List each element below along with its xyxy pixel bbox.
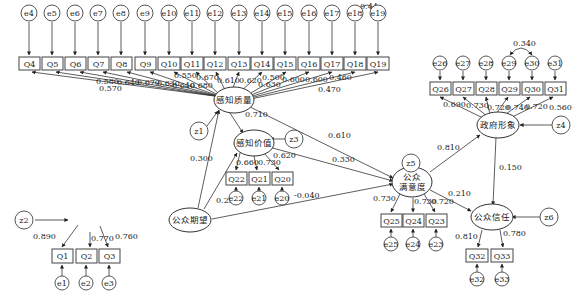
svg-text:0.730: 0.730 <box>466 101 489 110</box>
ps-items: 0.730 0.730 0.720 Q25 Q24 Q23 e25 e24 e2… <box>373 194 454 251</box>
svg-text:0.760: 0.760 <box>115 232 138 241</box>
svg-text:e9: e9 <box>140 9 150 18</box>
svg-text:0.670: 0.670 <box>196 73 219 82</box>
error-e23: e23 <box>429 237 444 251</box>
indicator-q28: Q28 <box>476 82 497 95</box>
indicator-q7: Q7 <box>88 57 109 70</box>
svg-text:Q11: Q11 <box>184 60 201 69</box>
indicator-q6: Q6 <box>65 57 86 70</box>
disturbance-z2: z2 <box>15 211 33 229</box>
svg-text:e14: e14 <box>255 9 270 18</box>
indicator-q23: Q23 <box>426 214 447 227</box>
indicator-q20: Q20 <box>272 172 293 185</box>
svg-text:e6: e6 <box>70 9 80 18</box>
svg-text:Q29: Q29 <box>501 85 518 94</box>
error-e33: e33 <box>495 272 510 286</box>
svg-text:e26: e26 <box>433 59 448 68</box>
disturbance-z1: z1 <box>190 122 208 140</box>
indicator-q25: Q25 <box>381 214 402 227</box>
error-e5: e5 <box>44 5 60 21</box>
svg-text:Q20: Q20 <box>274 175 291 184</box>
indicator-q1: Q1 <box>52 249 73 263</box>
svg-text:Q8: Q8 <box>116 60 128 69</box>
svg-text:公众期望: 公众期望 <box>172 215 208 225</box>
svg-text:e19: e19 <box>371 9 386 18</box>
pe-items: 0.890 0.770 0.760 Q1 Q2 Q3 e1 e2 e3 <box>33 225 138 290</box>
indicator-q5: Q5 <box>42 57 63 70</box>
svg-text:0.150: 0.150 <box>499 163 522 172</box>
svg-text:Q10: Q10 <box>161 60 178 69</box>
svg-text:e13: e13 <box>232 9 247 18</box>
e29-e30-covariance-label: 0.340 <box>513 39 536 48</box>
svg-text:z3: z3 <box>289 135 298 144</box>
error-e11: e11 <box>184 5 200 21</box>
error-e30: e30 <box>525 56 540 70</box>
error-e27: e27 <box>456 56 471 70</box>
svg-text:感知价值: 感知价值 <box>236 138 272 148</box>
svg-text:e31: e31 <box>548 59 563 68</box>
svg-text:0.680: 0.680 <box>190 81 213 90</box>
svg-text:z5: z5 <box>406 159 415 168</box>
svg-text:Q13: Q13 <box>231 60 248 69</box>
indicator-q32: Q32 <box>466 249 488 262</box>
svg-text:e24: e24 <box>406 240 421 249</box>
svg-text:e32: e32 <box>470 275 485 284</box>
svg-text:e33: e33 <box>495 275 510 284</box>
svg-text:0.770: 0.770 <box>91 234 114 243</box>
svg-text:e25: e25 <box>384 240 399 249</box>
disturbance-z6: z6 <box>540 208 558 226</box>
svg-text:z4: z4 <box>556 121 565 130</box>
disturbance-z5: z5 <box>402 154 420 172</box>
pv-items: 0.660 0.730 0.620 Q22 Q21 Q20 e22 e21 e2… <box>226 151 296 205</box>
svg-text:0.810: 0.810 <box>455 232 478 241</box>
svg-text:公众信任: 公众信任 <box>474 212 510 222</box>
error-e3: e3 <box>102 276 116 290</box>
error-e1: e1 <box>55 276 69 290</box>
error-e31: e31 <box>548 56 563 70</box>
svg-text:e16: e16 <box>302 9 317 18</box>
svg-text:e21: e21 <box>252 194 267 203</box>
svg-text:政府形象: 政府形象 <box>480 120 516 130</box>
gi-items: 0.690 0.730 0.720 0.740 0.720 0.560 Q26 … <box>430 39 572 119</box>
sem-path-diagram: 0.44 e4 e5 e6 e7 e8 e9 e10 e11 e12 e13 e… <box>0 0 585 308</box>
error-e9: e9 <box>137 5 153 21</box>
e29-e30-covariance-arc <box>510 48 532 55</box>
pq-indicator-boxes: Q4 Q5 Q6 Q7 Q8 Q9 Q10 Q11 Q12 Q13 Q14 Q1… <box>19 57 389 70</box>
svg-text:z6: z6 <box>544 213 553 222</box>
indicator-q29: Q29 <box>499 82 520 95</box>
error-e18: e18 <box>347 5 363 21</box>
svg-text:Q12: Q12 <box>207 60 224 69</box>
disturbance-arrows <box>35 111 552 220</box>
svg-text:0.610: 0.610 <box>217 76 240 85</box>
svg-text:e7: e7 <box>93 9 103 18</box>
svg-text:e15: e15 <box>278 9 293 18</box>
svg-text:0.470: 0.470 <box>318 85 341 94</box>
svg-text:Q23: Q23 <box>428 217 445 226</box>
svg-text:0.720: 0.720 <box>431 197 454 206</box>
svg-text:e8: e8 <box>116 9 126 18</box>
svg-text:Q33: Q33 <box>494 252 511 261</box>
latent-public-expectation: 公众期望 <box>169 208 211 232</box>
svg-text:Q2: Q2 <box>81 252 93 261</box>
svg-text:Q3: Q3 <box>104 252 116 261</box>
indicator-q22: Q22 <box>226 172 247 185</box>
indicator-q19: Q19 <box>367 57 389 70</box>
indicator-q4: Q4 <box>19 57 40 70</box>
error-e7: e7 <box>90 5 106 21</box>
latent-perceived-value: 感知价值 <box>234 130 274 156</box>
svg-text:Q19: Q19 <box>370 60 387 69</box>
svg-text:z1: z1 <box>194 127 203 136</box>
svg-text:Q15: Q15 <box>277 60 294 69</box>
svg-text:Q4: Q4 <box>24 60 36 69</box>
svg-text:Q30: Q30 <box>524 85 541 94</box>
svg-text:e3: e3 <box>104 279 114 288</box>
latent-public-trust: 公众信任 <box>471 204 513 230</box>
svg-text:e30: e30 <box>525 59 540 68</box>
pq-error-arrows <box>29 22 378 55</box>
svg-text:0.620: 0.620 <box>273 151 296 160</box>
svg-text:Q9: Q9 <box>140 60 152 69</box>
svg-text:0.550: 0.550 <box>174 71 197 80</box>
error-e20: e20 <box>275 191 290 205</box>
indicator-q3: Q3 <box>99 249 120 263</box>
latent-perceived-quality: 感知质量 <box>214 87 254 113</box>
